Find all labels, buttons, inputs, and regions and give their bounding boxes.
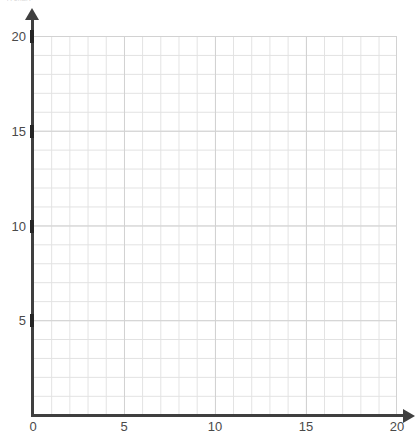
graph-screenshot: A chart 5101520 05101520 [0,0,419,435]
y-tick-label: 20 [12,29,26,44]
grid-edge-right [396,36,397,415]
y-axis-line [31,18,34,417]
x-tick-label: 0 [29,419,36,434]
grid-edge-top [33,36,397,37]
x-tick-label: 10 [208,419,222,434]
y-tick-label: 15 [12,123,26,138]
y-axis-arrow-icon [25,8,39,20]
y-tick-mark [30,220,34,233]
plot-grid-minor [33,36,397,415]
x-tick-label: 15 [299,419,313,434]
x-tick-label: 5 [120,419,127,434]
y-tick-label: 5 [19,313,26,328]
x-axis-line [31,414,407,417]
y-tick-mark [30,30,34,43]
y-tick-mark [30,314,34,327]
y-tick-mark [30,125,34,138]
y-tick-label: 10 [12,218,26,233]
x-axis-arrow-icon [403,409,415,423]
cropped-header-text: A chart [7,0,31,2]
x-tick-label: 20 [390,419,404,434]
